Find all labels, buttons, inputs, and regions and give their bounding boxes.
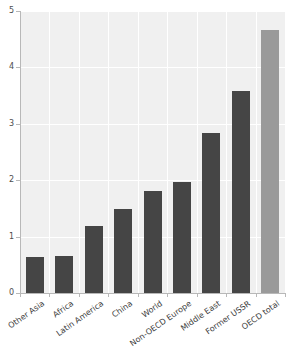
x-tick-label-middle-east: Middle East bbox=[54, 299, 223, 358]
bar-china[interactable] bbox=[114, 209, 132, 293]
bar-other-asia[interactable] bbox=[26, 257, 44, 293]
x-tick-label-former-ussr: Former USSR bbox=[83, 299, 252, 358]
bar-oecd-total[interactable] bbox=[261, 30, 279, 293]
bar-world[interactable] bbox=[144, 191, 162, 293]
x-tick-mark bbox=[285, 293, 286, 297]
x-tick-mark bbox=[256, 293, 257, 297]
x-tick-label-world: World bbox=[0, 299, 164, 358]
plot-area bbox=[20, 11, 285, 293]
bar-middle-east[interactable] bbox=[202, 133, 220, 293]
x-tick-mark bbox=[108, 293, 109, 297]
y-tick-mark bbox=[16, 67, 20, 68]
y-tick-mark bbox=[16, 180, 20, 181]
y-tick-label: 0 bbox=[9, 289, 14, 297]
bar-non-oecd-europe[interactable] bbox=[173, 182, 191, 293]
bars-layer bbox=[20, 11, 285, 293]
x-axis-line bbox=[20, 293, 285, 294]
x-tick-mark bbox=[49, 293, 50, 297]
y-tick-label: 1 bbox=[9, 233, 14, 241]
x-tick-mark bbox=[226, 293, 227, 297]
x-tick-mark bbox=[79, 293, 80, 297]
bar-africa[interactable] bbox=[55, 256, 73, 293]
x-tick-mark bbox=[20, 293, 21, 297]
bar-former-ussr[interactable] bbox=[232, 91, 250, 293]
y-axis-line bbox=[20, 11, 21, 294]
y-tick-mark bbox=[16, 237, 20, 238]
x-tick-mark bbox=[167, 293, 168, 297]
y-tick-mark bbox=[16, 11, 20, 12]
y-tick-label: 4 bbox=[9, 63, 14, 71]
bar-latin-america[interactable] bbox=[85, 226, 103, 293]
y-tick-label: 5 bbox=[9, 7, 14, 15]
x-tick-label-oecd-total: OECD total bbox=[112, 299, 281, 358]
y-tick-label: 2 bbox=[9, 176, 14, 184]
x-tick-label-non-oecd-europe: Non-OECD Europe bbox=[24, 299, 193, 358]
x-tick-mark bbox=[197, 293, 198, 297]
y-tick-label: 3 bbox=[9, 120, 14, 128]
x-tick-mark bbox=[138, 293, 139, 297]
y-tick-mark bbox=[16, 124, 20, 125]
bar-chart: 012345 Other AsiaAfricaLatin AmericaChin… bbox=[0, 0, 293, 358]
